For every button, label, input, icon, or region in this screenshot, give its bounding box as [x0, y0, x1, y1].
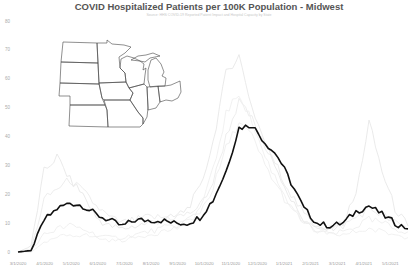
state-michigan-up	[131, 53, 160, 62]
y-tick-label: 40	[5, 134, 11, 139]
state-lines	[18, 55, 408, 252]
state-ohio	[158, 81, 181, 102]
state-south-dakota	[60, 62, 99, 84]
state-illinois	[129, 84, 148, 124]
state-line	[18, 55, 408, 252]
x-tick-label: 6/1/2020	[89, 261, 106, 266]
x-tick-label: 1/1/2021	[276, 261, 293, 266]
y-tick-label: 50	[5, 105, 11, 110]
y-tick-label: 10	[5, 221, 11, 226]
x-tick-label: 4/1/2021	[355, 261, 372, 266]
state-minnesota	[97, 40, 131, 83]
x-tick-label: 5/1/2020	[63, 261, 80, 266]
state-nebraska	[59, 83, 105, 105]
state-iowa	[99, 82, 133, 100]
x-tick-label: 2/1/2021	[302, 261, 319, 266]
state-missouri	[104, 100, 143, 127]
line-chart: 01020304050607080 3/1/20204/1/20205/1/20…	[0, 0, 418, 270]
x-tick-label: 7/1/2020	[116, 261, 133, 266]
x-tick-label: 8/1/2020	[143, 261, 160, 266]
state-michigan-lp	[148, 58, 166, 87]
y-tick-label: 70	[5, 47, 11, 52]
x-tick-label: 3/1/2020	[10, 261, 27, 266]
state-kansas	[69, 105, 108, 127]
y-tick-label: 20	[5, 192, 11, 197]
x-tick-label: 11/1/2020	[221, 261, 240, 266]
x-axis-ticks: 3/1/20204/1/20205/1/20206/1/20207/1/2020…	[10, 261, 400, 266]
y-tick-label: 80	[5, 19, 11, 24]
x-tick-label: 4/1/2020	[36, 261, 53, 266]
y-axis-ticks: 01020304050607080	[5, 19, 11, 255]
x-tick-label: 10/1/2020	[195, 261, 215, 266]
y-tick-label: 60	[5, 76, 11, 81]
x-tick-label: 12/1/2020	[248, 261, 268, 266]
state-north-dakota	[61, 42, 98, 63]
y-tick-label: 0	[7, 250, 10, 255]
state-indiana	[147, 86, 160, 110]
state-wisconsin	[120, 56, 146, 88]
x-tick-label: 3/1/2021	[329, 261, 346, 266]
x-tick-label: 9/1/2020	[169, 261, 186, 266]
midwest-map-inset	[59, 40, 181, 127]
y-tick-label: 30	[5, 163, 11, 168]
x-tick-label: 5/1/2021	[382, 261, 399, 266]
